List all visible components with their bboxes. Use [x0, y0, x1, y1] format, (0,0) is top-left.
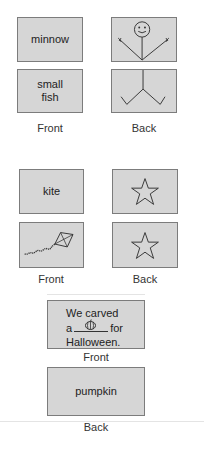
label-front: Front — [20, 122, 80, 134]
label-front: Front — [21, 273, 81, 285]
sentence-word-for: for — [110, 322, 123, 334]
star-icon — [113, 170, 177, 213]
card-text: kite — [43, 185, 60, 198]
blank — [74, 320, 108, 332]
sentence-line-2: a for — [66, 320, 123, 335]
card-minnow-back-top — [111, 17, 177, 62]
label-front: Front — [66, 351, 126, 363]
sentence-word-a: a — [66, 322, 72, 334]
pumpkin-icon — [84, 318, 97, 331]
divider — [47, 294, 145, 295]
card-kite-front-top: kite — [19, 169, 84, 214]
sentence-line-3: Halloween. — [66, 335, 123, 349]
card-text: minnow — [31, 33, 69, 46]
card-minnow-front-bottom: small fish — [17, 69, 83, 113]
card-pumpkin-back: pumpkin — [47, 367, 145, 416]
card-kite-back-top — [112, 169, 178, 214]
label-back: Back — [66, 421, 126, 433]
label-back: Back — [115, 273, 175, 285]
sentence: We carved a for Halloween. — [66, 306, 123, 349]
card-pumpkin-front: We carved a for Halloween. — [47, 300, 145, 349]
card-minnow-back-bottom — [111, 69, 177, 113]
kite-icon — [20, 223, 83, 267]
label-back: Back — [114, 122, 174, 134]
card-text: small fish — [30, 78, 70, 104]
card-text: pumpkin — [75, 385, 117, 398]
card-minnow-front-top: minnow — [17, 17, 83, 62]
star-icon — [113, 223, 177, 267]
card-kite-front-bottom — [19, 222, 84, 268]
stick-figure-bottom-icon — [112, 70, 176, 112]
card-kite-back-bottom — [112, 222, 178, 268]
stick-figure-top-icon — [112, 18, 176, 61]
